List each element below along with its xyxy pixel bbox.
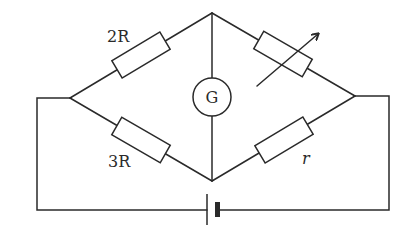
galvanometer: G (193, 78, 231, 116)
battery-short-plate (215, 202, 220, 217)
label-2r: 2R (107, 27, 130, 46)
variable-resistor-body (254, 31, 312, 76)
variable-resistor (254, 31, 312, 76)
wheatstone-bridge-diagram: 2R 3R r G (0, 0, 413, 240)
label-r: r (302, 149, 311, 168)
battery-icon (207, 194, 220, 225)
label-3r: 3R (108, 152, 131, 171)
galvanometer-label: G (206, 88, 219, 107)
